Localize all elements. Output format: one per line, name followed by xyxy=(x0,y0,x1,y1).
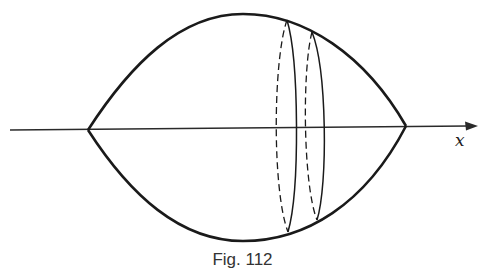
solid-of-revolution-figure xyxy=(0,0,481,273)
cross-section-1 xyxy=(276,20,296,232)
x-axis xyxy=(10,122,478,131)
figure-caption: Fig. 112 xyxy=(0,250,481,270)
upper-boundary-arc xyxy=(88,14,406,130)
cross-section-2 xyxy=(305,32,324,220)
axis-arrowhead-icon xyxy=(465,122,478,131)
visible-edge-solid xyxy=(312,32,324,220)
hidden-edge-dashed xyxy=(276,20,288,232)
x-axis-label: x xyxy=(455,130,465,150)
hidden-edge-dashed xyxy=(305,32,317,220)
figure-caption-text: Fig. 112 xyxy=(212,250,272,269)
visible-edge-solid xyxy=(287,20,297,232)
lower-boundary-arc xyxy=(88,126,406,241)
